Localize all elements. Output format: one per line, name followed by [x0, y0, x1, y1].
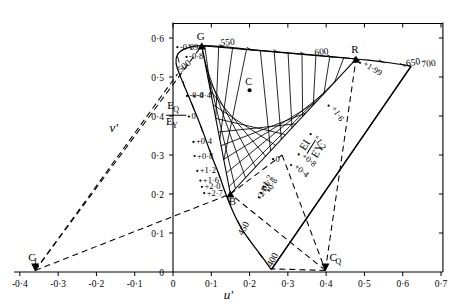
label-subscript: Q [335, 257, 341, 266]
wavelength-tick [178, 56, 180, 62]
wavelength-label: 650 [405, 56, 421, 68]
x-tick-label: -0·3 [50, 279, 66, 289]
wavelength-label: 550 [220, 37, 235, 48]
axis-frame [14, 22, 443, 272]
label-b: B [229, 195, 236, 207]
mesh-tick-dot-i [298, 153, 300, 155]
mesh-tick-dot-i [310, 133, 312, 135]
mesh-line-i [313, 56, 316, 105]
locus-annotation-label: -0·89 [180, 42, 198, 52]
mesh-line-i [302, 54, 303, 116]
dashed-ray-from-ci [35, 194, 230, 270]
constant-ratio-mesh [203, 46, 344, 189]
label-c: C [245, 76, 252, 87]
x-tick-label: 0·6 [396, 279, 409, 289]
label-subscript: Q [173, 105, 179, 114]
locus-annotation-label: -0·8 [189, 51, 203, 61]
label-subscript: Y [172, 121, 178, 130]
mesh-tick-label-i: +1·6 [329, 104, 346, 123]
x-tick-label: 0·3 [282, 279, 295, 289]
x-tick-label: 0·7 [435, 279, 448, 289]
y-tick-label: 0·1 [151, 229, 164, 239]
x-tick-label: -0·2 [89, 279, 105, 289]
x-tick-label: -0·1 [127, 279, 143, 289]
mesh-tick-label-q: +0·4 [196, 136, 213, 146]
mesh-tick-dot-q [188, 116, 190, 118]
x-tick-label: 0·5 [358, 279, 371, 289]
mesh-tick-dot-i [328, 105, 330, 107]
y-tick-label: 0·3 [151, 151, 164, 161]
chromaticity-plot-svg: -0·4-0·3-0·2-0·100·10·20·30·40·50·60·700… [0, 0, 453, 305]
x-tick-label: 0 [171, 279, 176, 289]
x-tick-label: 0·1 [205, 279, 218, 289]
dashed-ray-from-ci [35, 74, 177, 271]
label-r: R [351, 43, 359, 55]
eq-numerator: EQ [167, 99, 179, 114]
chromaticity-diagram-figure: -0·4-0·3-0·2-0·100·10·20·30·40·50·60·700… [0, 0, 453, 305]
label-g: G [197, 30, 205, 42]
dashed-ray-from-cq [272, 269, 326, 271]
mesh-tick-label-q: +2·7 [207, 188, 223, 198]
mesh-line-i [288, 53, 292, 128]
x-tick-group [20, 272, 441, 276]
x-tick-label: 0·2 [243, 279, 256, 289]
y-tick-label: 0·4 [151, 112, 164, 122]
eq-denominator: EY [166, 115, 178, 130]
y-axis-title: v' [109, 120, 118, 135]
triangle-edge-gr [202, 46, 356, 59]
mesh-tick-dot-i [359, 62, 361, 64]
locus-annotation-dot [193, 95, 195, 97]
y-tick-label: 0·6 [151, 34, 164, 44]
dashed-ray-from-ci [35, 46, 202, 271]
mesh-tick-dot-q [203, 192, 205, 194]
mesh-tick-dot-q [196, 170, 198, 172]
mesh-tick-dot-q [199, 179, 201, 181]
mesh-tick-dot-q [201, 186, 203, 188]
mesh-tick-dot-q [186, 95, 188, 97]
mesh-tick-dot-i [290, 164, 292, 166]
top-tick-group [173, 24, 441, 28]
x-tick-label: 0·4 [320, 279, 333, 289]
label-subscript: I [34, 257, 37, 266]
locus-annotation-dot [176, 46, 178, 48]
x-axis-title: u' [224, 287, 234, 302]
dashed-ray-from-cq [325, 59, 356, 270]
y-tick-label: 0·5 [151, 73, 164, 83]
mesh-line-i [335, 58, 344, 82]
locus-annotation-dot [185, 56, 187, 58]
wavelength-tick [248, 237, 251, 242]
reference-marker-c [248, 88, 252, 92]
locus-annotation-label: -0·4 [197, 90, 212, 100]
label-cq: CQ [329, 251, 341, 266]
mesh-tick-dot-q [192, 141, 194, 143]
mesh-tick-label-q: 0 [191, 111, 195, 121]
y-tick-label: 0 [159, 268, 164, 278]
y-tick-label: 0·2 [151, 190, 164, 200]
mesh-tick-dot-i [272, 158, 274, 160]
mesh-tick-label-q: +1·2 [200, 165, 216, 175]
mesh-tick-label-i: 0 [276, 154, 280, 164]
mesh-tick-label-q: +0·8 [197, 151, 213, 161]
mesh-line-q [216, 118, 286, 134]
x-tick-label: -0·4 [12, 279, 28, 289]
wavelength-label: 700 [421, 58, 436, 69]
mesh-tick-dot-q [194, 155, 196, 157]
